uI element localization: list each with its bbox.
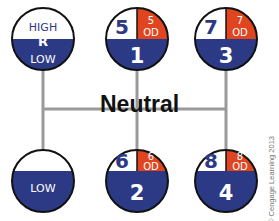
shift-position-3-7: 7 7 OD 3 [193,6,259,72]
gear-6-od-label: OD [143,161,159,172]
gear-2-label: 2 [130,181,145,205]
gear-7-od-number: 7 [237,15,243,26]
gear-7-label: 7 [204,15,218,39]
gear-1-label: 1 [130,44,145,68]
gear-8-label: 8 [204,149,218,173]
shift-position-2-6: 6 6 OD 2 [104,148,170,214]
copyright-credit: © Cengage Learning 2013 [266,140,276,220]
gear-7-od-label: OD [232,27,248,38]
gear-4-label: 4 [219,181,234,205]
shift-position-1-5: 5 5 OD 1 [104,6,170,72]
range-reverse-label: R [38,34,48,49]
copyright-text: © Cengage Learning 2013 [267,136,276,221]
range-high-label: HIGH [29,21,57,34]
range-low-label: LOW [30,53,55,66]
gear-3-label: 3 [219,44,234,68]
gear-5-label: 5 [115,15,129,39]
low-label: LOW [30,182,55,195]
neutral-label: Neutral [100,91,179,118]
gear-6-label: 6 [115,149,129,173]
gear-8-od-label: OD [232,161,248,172]
shift-pattern-diagram: HIGH R LOW 5 5 OD 1 7 7 OD 3 [0,0,279,221]
gear-5-od-number: 5 [148,15,154,26]
gear-5-od-label: OD [143,27,159,38]
shift-position-low: LOW [10,148,76,214]
shift-position-range: HIGH R LOW [10,6,76,72]
shift-position-4-8: 8 8 OD 4 [193,148,259,214]
